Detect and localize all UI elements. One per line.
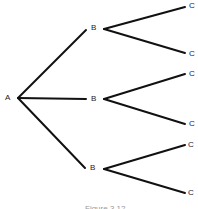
edge-b3-c5 xyxy=(104,145,185,169)
node-c2: C xyxy=(189,50,195,58)
node-a: A xyxy=(5,94,10,102)
node-b1: B xyxy=(91,24,96,32)
node-c4: C xyxy=(189,120,195,128)
edge-b1-c2 xyxy=(104,29,185,53)
node-c1: C xyxy=(189,2,195,10)
node-b2: B xyxy=(91,95,96,103)
node-c6: C xyxy=(188,189,194,197)
edge-a-b1 xyxy=(18,30,86,98)
edge-b2-c3 xyxy=(104,74,185,99)
edge-a-b3 xyxy=(18,98,85,168)
tree-edges xyxy=(0,0,198,209)
node-c3: C xyxy=(189,70,195,78)
figure-caption: Figure 3.12 xyxy=(85,204,125,209)
node-c5: C xyxy=(188,141,194,149)
edge-a-b2 xyxy=(18,98,86,99)
edge-b3-c6 xyxy=(104,169,185,193)
edge-b2-c4 xyxy=(104,99,185,124)
node-b3: B xyxy=(90,164,95,172)
edge-b1-c1 xyxy=(104,7,185,29)
